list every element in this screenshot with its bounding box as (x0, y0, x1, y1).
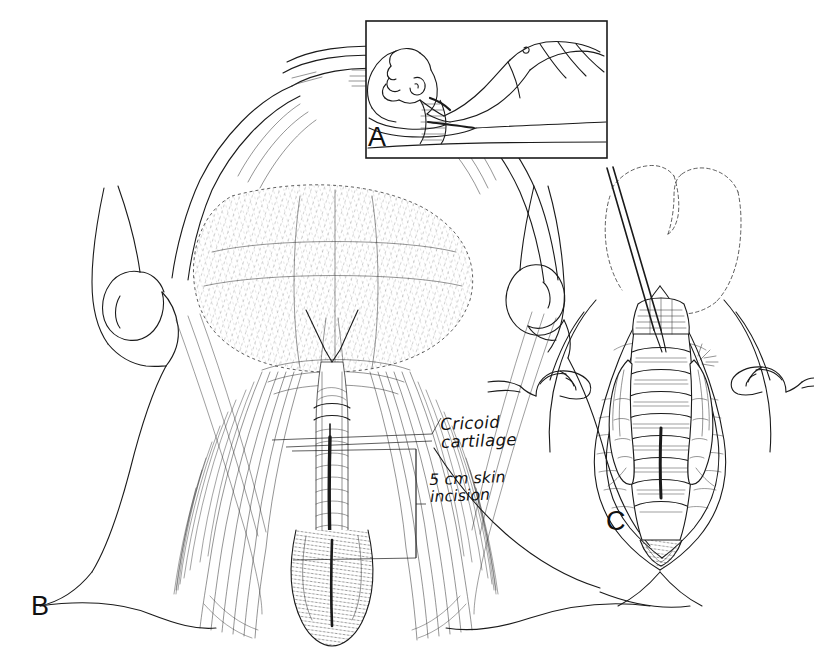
submental-region (180, 170, 500, 385)
panel-c-letter: C (606, 506, 626, 537)
panel-a-border (366, 21, 607, 158)
cricoid-leader-line (272, 434, 432, 440)
retractor-right (731, 367, 814, 395)
cricoid-leader-line-2 (286, 441, 432, 447)
panel-a-artwork (366, 21, 607, 158)
panel-b-letter: B (31, 591, 50, 622)
annotation-cricoid-cartilage: Cricoid cartilage (440, 413, 517, 453)
skin-incision-line (329, 424, 330, 546)
trachea (629, 298, 694, 540)
panel-a-letter: A (368, 122, 387, 153)
wound-inferior-pocket (640, 540, 682, 568)
panel-c-artwork (488, 165, 814, 607)
figure-artwork (0, 0, 814, 652)
annotation-skin-incision: 5 cm skin incision (429, 469, 507, 507)
left-ear (92, 186, 178, 366)
panel-c-dashed-outline (605, 165, 741, 314)
illustration-canvas: A B C Cricoid cartilage 5 cm skin incisi… (0, 0, 814, 652)
retractor-left (488, 371, 591, 399)
tracheal-incision-line (660, 428, 661, 498)
suprasternal-notch (291, 530, 373, 646)
strap-muscle-left (174, 368, 302, 638)
